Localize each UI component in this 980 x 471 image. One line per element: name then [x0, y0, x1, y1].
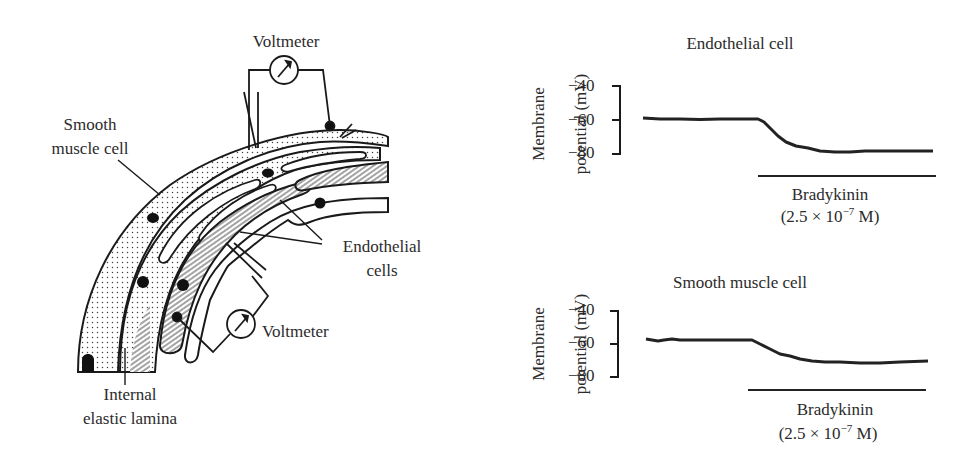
chart1-tick-40: −40 [568, 76, 595, 96]
conc-prefix: (2.5 × 10 [779, 424, 841, 443]
chart1-title: Endothelial cell [640, 34, 840, 54]
chart2-tick-40: −40 [568, 300, 595, 320]
conc-suffix: M) [852, 424, 877, 443]
chart1-ylabel-line1: Membrane [529, 69, 549, 179]
chart2-stimulus-label: Bradykinin [765, 400, 905, 420]
chart1-tick-60: −60 [568, 110, 595, 130]
conc-exponent: −7 [841, 422, 853, 434]
conc-suffix: M) [854, 207, 879, 226]
chart2-title: Smooth muscle cell [640, 273, 840, 293]
chart2-tick-80: −80 [568, 366, 595, 386]
chart1-tick-80: −80 [568, 143, 595, 163]
label-voltmeter-top: Voltmeter [236, 32, 336, 52]
trace-smooth-muscle [646, 339, 928, 363]
chart2-stimulus-conc: (2.5 × 10−7 M) [748, 424, 908, 444]
label-endothelial-line2: cells [322, 261, 442, 281]
y-axis-bracket [612, 86, 620, 154]
chart2-tick-60: −60 [568, 333, 595, 353]
label-smooth-muscle-line2: muscle cell [30, 139, 150, 159]
chart2-ylabel-line1: Membrane [529, 289, 549, 399]
chart1-stimulus-conc: (2.5 × 10−7 M) [750, 207, 910, 227]
conc-prefix: (2.5 × 10 [781, 207, 843, 226]
label-lamina-line2: elastic lamina [60, 409, 200, 429]
label-lamina-line1: Internal [60, 385, 200, 405]
conc-exponent: −7 [843, 205, 855, 217]
label-endothelial-line1: Endothelial [322, 237, 442, 257]
label-voltmeter-bottom: Voltmeter [262, 322, 329, 342]
label-smooth-muscle-line1: Smooth [30, 115, 150, 135]
chart1-stimulus-label: Bradykinin [760, 185, 900, 205]
y-axis-bracket [610, 311, 618, 377]
chart-smooth-muscle [610, 311, 928, 390]
trace-endothelial [643, 118, 933, 152]
chart-endothelial [612, 86, 936, 176]
